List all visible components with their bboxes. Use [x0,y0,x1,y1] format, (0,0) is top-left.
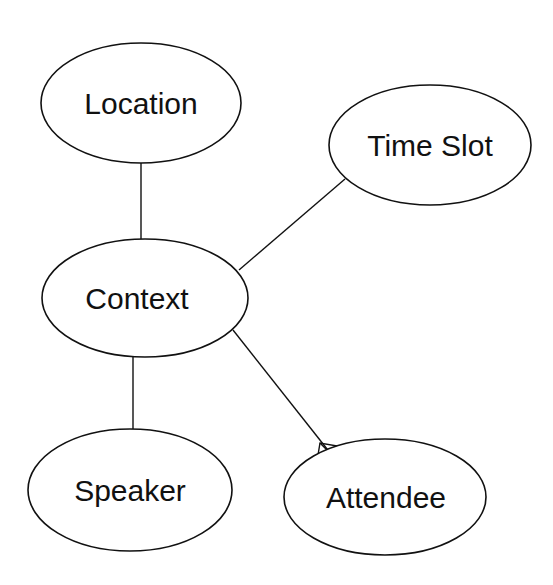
node-speaker[interactable]: Speaker [28,429,232,551]
edge-context-time-slot [239,179,345,270]
er-diagram: Location Time Slot Context Speaker Atten… [0,0,553,585]
node-label-location: Location [84,87,197,120]
node-location[interactable]: Location [41,43,241,163]
node-label-attendee: Attendee [326,481,446,514]
node-label-context: Context [85,282,189,315]
node-context[interactable]: Context [42,239,248,357]
node-label-time-slot: Time Slot [367,129,493,162]
node-label-speaker: Speaker [74,474,186,507]
edge-context-attendee [233,330,343,461]
node-attendee[interactable]: Attendee [284,439,486,555]
node-time-slot[interactable]: Time Slot [329,85,531,205]
